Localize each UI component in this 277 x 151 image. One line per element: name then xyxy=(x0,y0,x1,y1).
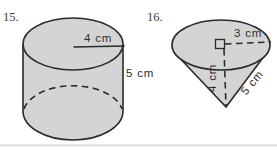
cone-radius-label: 3 cm xyxy=(234,27,262,39)
cone-height-label: 4 cm xyxy=(206,64,218,92)
page-divider-rule xyxy=(0,145,277,147)
geometry-figures-canvas: 15. 4 cm 5 cm 16. 3 cm xyxy=(0,0,277,151)
cylinder-figure: 15. 4 cm 5 cm xyxy=(3,10,154,140)
cylinder-radius-label: 4 cm xyxy=(84,32,112,44)
problem-number-15: 15. xyxy=(3,10,19,24)
cone-figure: 16. 3 cm 4 cm 5 cm xyxy=(147,10,271,107)
cylinder-top-ellipse xyxy=(23,18,123,70)
cylinder-radius-line xyxy=(74,46,124,47)
problem-number-16: 16. xyxy=(147,10,163,24)
cylinder-height-label: 5 cm xyxy=(126,67,154,79)
textbook-figure-region: 15. 4 cm 5 cm 16. 3 cm xyxy=(0,0,277,151)
